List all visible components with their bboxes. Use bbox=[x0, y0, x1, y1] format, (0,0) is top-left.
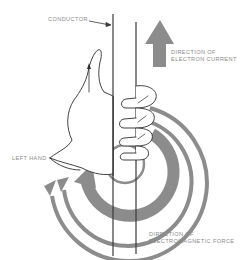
force-direction-label: DIRECTION OF ELECTROMAGNETIC FORCE bbox=[149, 231, 234, 245]
current-direction-arrow-icon bbox=[145, 20, 174, 67]
arrowhead-middle-icon bbox=[57, 177, 69, 192]
hand-label: LEFT HAND bbox=[12, 155, 47, 162]
left-hand-rule-diagram bbox=[0, 0, 252, 260]
conductor-pointer-icon bbox=[89, 21, 111, 27]
current-label-line2: ELECTRON CURRENT bbox=[171, 56, 237, 63]
conductor-label: CONDUCTOR bbox=[48, 16, 88, 23]
arrowhead-outer-icon bbox=[44, 180, 56, 196]
current-direction-label: DIRECTION OF ELECTRON CURRENT bbox=[171, 49, 237, 63]
left-hand-illustration bbox=[50, 50, 156, 175]
force-label-line2: ELECTROMAGNETIC FORCE bbox=[149, 238, 234, 245]
force-label-line1: DIRECTION OF bbox=[149, 231, 234, 238]
current-label-line1: DIRECTION OF bbox=[171, 49, 237, 56]
